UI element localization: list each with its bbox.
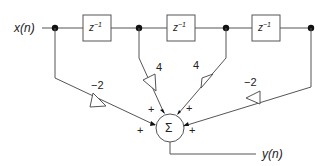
- delay-block-3: z−1: [252, 15, 280, 41]
- delay-1-exponent: −1: [94, 21, 102, 28]
- gain-label-1: 4: [156, 61, 162, 73]
- gain-triangle-3: [246, 91, 260, 104]
- sign-input-0: +: [137, 124, 143, 136]
- gain-label-2: 4: [193, 59, 199, 71]
- gain-triangle-2: [201, 74, 213, 88]
- delay-block-2: z−1: [167, 15, 195, 41]
- gain-triangle-0: [90, 93, 106, 107]
- tap-0-wire: [55, 28, 155, 125]
- output-wire: [170, 142, 256, 154]
- input-label: x(n): [13, 21, 35, 35]
- sign-input-3: +: [189, 124, 195, 136]
- delay-3-exponent: −1: [263, 21, 271, 28]
- gain-label-0: −2: [91, 79, 104, 91]
- arrowhead-1: [160, 109, 165, 114]
- delay-block-1: z−1: [83, 15, 111, 41]
- gain-label-3: −2: [244, 76, 257, 88]
- delay-2-exponent: −1: [178, 21, 186, 28]
- sign-input-1: +: [148, 103, 154, 115]
- gain-triangle-1: [143, 74, 156, 91]
- sign-input-2: +: [186, 102, 192, 114]
- output-label: y(n): [261, 147, 283, 161]
- sigma-symbol: Σ: [165, 121, 172, 135]
- arrowhead-0: [150, 121, 156, 126]
- fir-filter-diagram: x(n) z−1 z−1 z−1 −2 4 4 −2 Σ + + + +: [0, 0, 328, 166]
